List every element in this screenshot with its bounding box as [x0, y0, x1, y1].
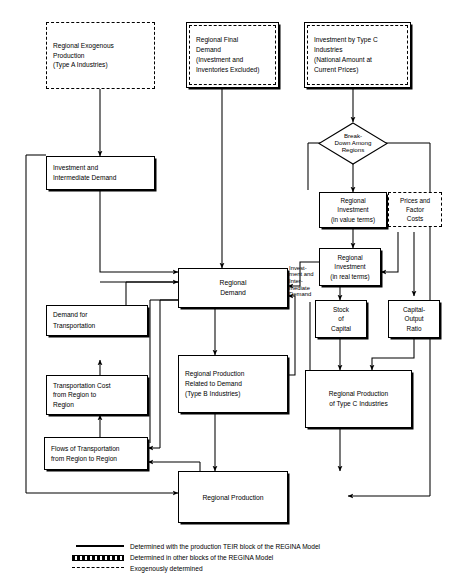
node-transportation-cost-region-to-region[interactable]: Transportation Cost from Region to Regio…: [46, 375, 148, 415]
node-inner-frame: Regional Final Demand (Investment and In…: [189, 25, 276, 85]
dashed-line-icon: [72, 563, 124, 573]
node-investment-and-intermediate-demand[interactable]: Investment and Intermediate Demand: [46, 156, 155, 190]
legend-label: Determined with the production TEIR bloc…: [130, 543, 320, 550]
node-label: Regional Demand: [179, 278, 287, 298]
node-label: Regional Investment (in value terms): [320, 196, 386, 223]
node-break-down-among-regions[interactable]: Break- Down Among Regions: [318, 122, 388, 165]
node-label: Regional Investment (in real terms): [320, 253, 380, 280]
legend-label: Exogenously determined: [130, 565, 203, 572]
node-regional-exogenous-production[interactable]: Regional Exogenous Production (Type A In…: [46, 22, 155, 89]
legend-item-solid-line: Determined with the production TEIR bloc…: [72, 541, 320, 551]
node-investment-by-type-c-industries[interactable]: Investment by Type C Industries (Nationa…: [304, 22, 411, 88]
edge-label-investment-and-intermediate-demand: Invest- ment and Inter- mediate Demand: [289, 258, 323, 298]
node-label: Transportation Cost from Region to Regio…: [53, 381, 141, 410]
node-regional-demand[interactable]: Regional Demand: [178, 268, 288, 308]
node-label: Flows of Transportation from Region to R…: [51, 444, 141, 464]
node-capital-output-ratio[interactable]: Capital- Output Ratio: [388, 300, 440, 338]
node-label: Regional Production Related to Demand (T…: [185, 369, 281, 399]
node-regional-production-type-b[interactable]: Regional Production Related to Demand (T…: [178, 355, 288, 413]
node-regional-production-type-c[interactable]: Regional Production of Type C Industries: [305, 370, 412, 428]
node-label: Regional Production: [179, 494, 287, 501]
node-regional-final-demand[interactable]: Regional Final Demand (Investment and In…: [186, 22, 279, 88]
edge-label-text: Invest- ment and Inter- mediate Demand: [289, 265, 314, 298]
node-label: Prices and Factor Costs: [389, 196, 441, 223]
solid-line-icon: [72, 541, 124, 551]
node-label: Capital- Output Ratio: [389, 305, 439, 332]
node-label: Investment by Type C Industries (Nationa…: [314, 35, 401, 75]
node-label: Regional Production of Type C Industries: [306, 389, 411, 409]
node-label: Stock of Capital: [316, 305, 366, 332]
node-regional-investment-real-terms[interactable]: Regional Investment (in real terms): [319, 248, 381, 286]
node-label: Demand for Transportation: [53, 310, 141, 330]
node-prices-and-factor-costs[interactable]: Prices and Factor Costs: [388, 192, 442, 227]
node-inner-frame: Investment by Type C Industries (Nationa…: [307, 25, 408, 85]
node-label: Regional Final Demand (Investment and In…: [196, 35, 269, 75]
node-label: Regional Exogenous Production (Type A In…: [53, 41, 148, 71]
node-stock-of-capital[interactable]: Stock of Capital: [315, 300, 367, 338]
legend-item-dashed-line: Exogenously determined: [72, 563, 203, 573]
node-regional-investment-value-terms[interactable]: Regional Investment (in value terms): [319, 192, 387, 228]
flowchart-canvas: Regional Exogenous Production (Type A In…: [0, 0, 450, 575]
node-flows-of-transportation[interactable]: Flows of Transportation from Region to R…: [44, 437, 148, 470]
node-demand-for-transportation[interactable]: Demand for Transportation: [46, 305, 148, 336]
node-regional-production[interactable]: Regional Production: [178, 471, 288, 523]
node-label: Investment and Intermediate Demand: [53, 163, 148, 183]
node-label: Break- Down Among Regions: [318, 122, 388, 165]
legend-label: Determined in other blocks of the REGINA…: [130, 554, 273, 561]
legend-item-double-line: Determined in other blocks of the REGINA…: [72, 552, 273, 562]
double-line-icon: [72, 552, 124, 562]
